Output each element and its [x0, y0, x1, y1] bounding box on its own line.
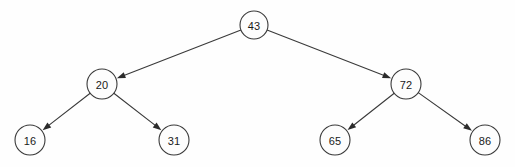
tree-node-86[interactable]: 86	[470, 125, 500, 155]
arrow-head-icon	[117, 72, 126, 78]
node-label: 31	[168, 135, 181, 147]
edge-line	[267, 30, 385, 76]
tree-node-31[interactable]: 31	[159, 125, 189, 155]
arrow-head-icon	[43, 123, 52, 131]
edge-line	[418, 93, 467, 128]
binary-search-tree-svg: 43207216316586	[0, 0, 515, 167]
tree-edge-n20-to-n31	[114, 93, 162, 130]
tree-node-65[interactable]: 65	[320, 125, 350, 155]
tree-node-72[interactable]: 72	[391, 69, 421, 99]
node-label: 72	[400, 79, 413, 91]
tree-edge-n72-to-n65	[348, 93, 395, 130]
tree-edge-n72-to-n86	[418, 93, 472, 131]
edge-line	[123, 30, 241, 76]
edge-line	[352, 93, 394, 126]
node-label: 16	[24, 135, 37, 147]
tree-diagram-canvas: 43207216316586	[0, 0, 515, 167]
tree-node-16[interactable]: 16	[15, 125, 45, 155]
node-label: 20	[96, 79, 109, 91]
tree-node-20[interactable]: 20	[87, 69, 117, 99]
edge-line	[114, 93, 157, 126]
node-label: 43	[248, 20, 261, 32]
arrow-head-icon	[463, 123, 472, 130]
edge-line	[47, 93, 90, 126]
node-label: 86	[479, 135, 492, 147]
tree-edge-n43-to-n72	[267, 30, 391, 78]
nodes-layer: 43207216316586	[15, 11, 500, 155]
tree-edge-n20-to-n16	[43, 93, 91, 130]
tree-node-43[interactable]: 43	[240, 11, 268, 39]
node-label: 65	[329, 135, 342, 147]
tree-edge-n43-to-n20	[117, 30, 241, 78]
arrow-head-icon	[348, 122, 357, 130]
arrow-head-icon	[153, 123, 162, 131]
arrow-head-icon	[382, 72, 391, 78]
